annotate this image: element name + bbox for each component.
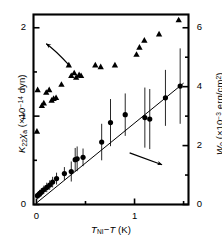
series-triangles-k22chi	[34, 17, 182, 134]
fit-line	[36, 83, 183, 203]
y-right-tick-label: 0	[186, 198, 214, 209]
figure-panel: K22χa (×10−14 dyn) W0 (×10−3 erg/cm2) TN…	[0, 0, 222, 247]
x-tick-label: 0	[22, 210, 50, 221]
y-left-tick-label: 0	[10, 198, 38, 209]
y-left-tick-label: 1	[10, 110, 38, 121]
y-right-tick-label: 6	[186, 21, 214, 32]
y-axis-right-title: W0 (×10−3 erg/cm2)	[214, 44, 222, 184]
y-right-tick-label: 4	[186, 80, 214, 91]
series-circles-w0	[35, 83, 183, 198]
x-axis-title: TNI−T (K)	[0, 224, 222, 235]
y-right-tick-label: 2	[186, 139, 214, 150]
x-tick-label: 1	[121, 210, 149, 221]
y-left-tick-label: 2	[10, 21, 38, 32]
